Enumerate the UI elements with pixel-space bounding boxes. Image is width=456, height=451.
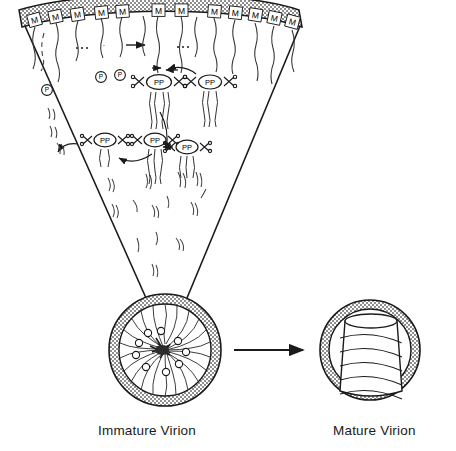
gag-chain <box>195 17 198 57</box>
core-knob <box>182 348 189 355</box>
matrix-protein-m: M <box>94 6 108 20</box>
m-label: M <box>231 8 239 19</box>
core-knob <box>162 368 169 375</box>
p-marker: P <box>96 72 107 83</box>
gag-chain <box>232 20 235 74</box>
fan-right-edge <box>187 26 300 298</box>
matrix-protein-m: M <box>27 12 43 27</box>
cleaved-peptide-fragment <box>156 206 159 218</box>
cleaved-peptide-fragment <box>176 238 180 250</box>
cleaved-peptide-fragment <box>133 200 137 212</box>
matrix-protein-m: M <box>152 4 165 17</box>
core-knob <box>132 351 139 358</box>
pp-leg <box>208 91 211 127</box>
cleaved-fragment-group <box>48 108 206 277</box>
curved-process-arrow <box>58 144 78 152</box>
capsid-body <box>340 317 402 396</box>
pp-leg <box>150 92 153 129</box>
pp-leg <box>186 156 187 178</box>
ellipsis-mark <box>177 46 189 48</box>
cleaved-peptide-fragment <box>55 127 57 138</box>
pp-leg <box>160 149 163 184</box>
cleaved-peptide-fragment <box>201 189 206 198</box>
cleaved-peptide-fragment <box>50 126 52 137</box>
fan-left-edge <box>25 26 146 298</box>
scissor-x-icon <box>183 75 196 87</box>
matrix-protein-m: M <box>248 8 263 22</box>
matrix-protein-m: M <box>228 6 242 20</box>
pp-leg <box>162 92 165 129</box>
ellipsis-group <box>76 46 189 49</box>
gag-chain <box>271 26 274 84</box>
matrix-protein-m: M <box>70 7 85 21</box>
gag-chain <box>120 17 123 57</box>
m-label: M <box>98 8 106 19</box>
scissor-x-icon <box>200 141 212 152</box>
p-label: P <box>45 86 49 93</box>
capsid-top <box>345 314 397 328</box>
pp-leg <box>154 149 156 184</box>
m-label: M <box>178 6 185 16</box>
m-label: M <box>119 7 127 17</box>
matrix-protein-m: M <box>267 10 282 25</box>
pp-leg <box>108 149 110 167</box>
budding-fan <box>19 0 302 298</box>
cleaved-peptide-fragment <box>180 239 184 251</box>
gag-chain <box>143 16 146 56</box>
cleaved-peptide-fragment <box>167 196 169 208</box>
scissor-x-icon <box>174 75 187 87</box>
nucleoid-core <box>155 345 169 355</box>
cleaved-peptide-fragment <box>152 205 155 217</box>
pp-leg <box>155 92 158 129</box>
gag-chain <box>180 16 183 73</box>
m-label: M <box>211 7 219 17</box>
core-knob <box>174 337 181 344</box>
cleaved-peptide-fragment <box>195 203 198 216</box>
cleaved-peptide-fragment <box>146 174 148 188</box>
gag-chain <box>157 16 160 73</box>
gag-chain <box>292 30 295 72</box>
pp-label: PP <box>150 136 160 145</box>
cleaved-peptide-fragment <box>200 173 202 187</box>
gag-chain <box>255 23 258 81</box>
cleaved-peptide-fragment <box>57 143 60 154</box>
cleaved-peptide-fragment <box>150 175 152 189</box>
gag-chain <box>56 23 60 82</box>
gag-polyprotein-chains <box>33 16 295 84</box>
pp-dimer-complex: PP <box>130 133 179 184</box>
pp-label: PP <box>100 136 110 145</box>
scissor-x-icon <box>80 134 92 145</box>
mature-virion <box>320 300 420 400</box>
pp-label: PP <box>182 143 192 152</box>
cleaved-peptide-fragment <box>196 172 198 186</box>
cleaved-peptide-fragment <box>112 204 114 217</box>
gag-chain <box>101 18 104 58</box>
core-knob <box>135 339 142 346</box>
pp-leg <box>167 92 170 129</box>
cleaved-peptide-fragment <box>116 205 118 218</box>
pp-leg <box>215 91 218 127</box>
cleaved-peptide-fragment <box>183 173 186 188</box>
matrix-protein-m: M <box>48 9 63 24</box>
pp-leg <box>100 149 102 167</box>
core-knob <box>142 363 149 370</box>
cleaved-peptide-fragment <box>156 265 158 277</box>
cleaved-peptide-fragment <box>137 238 139 252</box>
p-marker: P <box>115 70 126 81</box>
matrix-protein-m: M <box>116 5 130 18</box>
cleaved-peptide-fragment <box>152 264 154 276</box>
pp-leg <box>193 156 195 178</box>
pp-leg <box>203 91 206 127</box>
mature-virion-label: Mature Virion <box>333 423 416 438</box>
scissor-x-icon <box>130 134 142 145</box>
virion-maturation-diagram: M M M M M M M M <box>0 0 456 451</box>
matrix-protein-m: M <box>285 14 301 29</box>
pp-dimer-complex: PP <box>183 75 236 127</box>
gag-chain <box>76 21 79 61</box>
inward-arrow-pair <box>152 68 178 70</box>
scissor-x-icon <box>118 134 130 145</box>
scissor-x-icon <box>131 75 144 87</box>
cleaved-peptide-fragment <box>53 109 55 120</box>
matrix-protein-m: M <box>175 4 188 17</box>
immature-virion <box>109 294 221 406</box>
